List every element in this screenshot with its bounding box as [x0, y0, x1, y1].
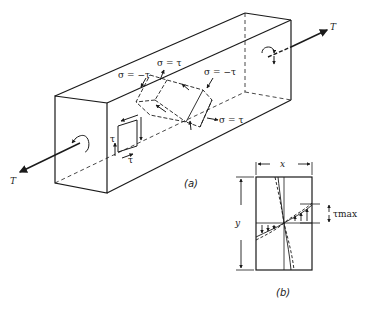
- stress-element-cube: [136, 75, 212, 127]
- torque-arrow-right: [268, 30, 327, 57]
- torsion-diagram: T T σ = −τ σ = τ σ = −τ σ = τ τ τ (a): [0, 0, 367, 309]
- height-label: y: [234, 218, 241, 228]
- max-shear-label: τmax: [333, 209, 357, 219]
- stress-label-top-right: σ = −τ: [204, 67, 236, 77]
- stress-label-top-middle: σ = τ: [157, 58, 181, 68]
- torque-label-right: T: [330, 22, 337, 32]
- width-label: x: [280, 159, 285, 169]
- torque-label-left: T: [10, 176, 17, 186]
- shear-element-square: [115, 115, 141, 158]
- panel-b-caption: (b): [276, 287, 290, 298]
- shear-label-vertical: τ: [110, 134, 115, 144]
- shear-label-horizontal: τ: [128, 155, 133, 165]
- stress-label-top-left: σ = −τ: [118, 70, 150, 80]
- rotation-arrow-right-icon: [262, 47, 274, 53]
- stress-label-bottom-right: σ = τ: [219, 115, 243, 125]
- bar-hidden-edges: [55, 13, 291, 183]
- torque-arrow-left: [20, 143, 80, 172]
- panel-a-caption: (a): [184, 178, 198, 189]
